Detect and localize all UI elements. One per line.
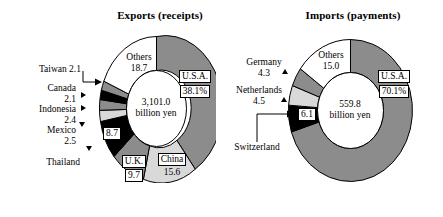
imports-switzerland-leader-line — [252, 110, 296, 146]
figure-canvas: Exports (receipts) — [0, 0, 443, 217]
imports-germany-name: Germany — [233, 57, 295, 68]
exports-label-canada: Canada 2.1 — [14, 83, 76, 105]
imports-label-usa: U.S.A. 70.1% — [373, 70, 415, 98]
exports-thailand-name: Thailand — [46, 157, 80, 167]
exports-china-name: China — [158, 153, 187, 166]
exports-thailand-marker-icon — [86, 146, 92, 151]
exports-label-indonesia: Indonesia 2.4 — [8, 104, 76, 126]
imports-chart-title: Imports (payments) — [293, 9, 413, 21]
exports-indonesia-marker-icon — [81, 105, 86, 111]
imports-netherlands-marker-icon — [281, 97, 287, 102]
exports-others-value: 18.7 — [118, 63, 160, 74]
exports-taiwan-name: Taiwan 2.1 — [39, 64, 81, 74]
exports-mexico-name: Mexico — [20, 125, 76, 136]
imports-usa-name: U.S.A. — [378, 70, 410, 83]
imports-usa-value: 70.1% — [379, 85, 410, 98]
exports-thailand-value: 8.7 — [103, 127, 121, 140]
exports-canada-name: Canada — [14, 83, 76, 94]
exports-label-china: China 15.6 — [152, 153, 192, 178]
exports-label-thailand: Thailand — [20, 157, 80, 168]
exports-mexico-marker-icon — [79, 122, 85, 127]
exports-taiwan-leader-line — [82, 70, 104, 88]
imports-netherlands-name: Netherlands — [225, 85, 293, 96]
exports-mexico-value: 2.5 — [20, 136, 76, 147]
exports-usa-value: 38.1% — [180, 85, 211, 98]
exports-label-usa: U.S.A. 38.1% — [175, 70, 215, 98]
exports-label-taiwan: Taiwan 2.1 — [14, 64, 81, 75]
exports-label-mexico: Mexico 2.5 — [20, 125, 76, 147]
imports-switzerland-value: 6.1 — [298, 108, 316, 121]
exports-china-value: 15.6 — [152, 167, 192, 178]
exports-uk-name: U.K. — [122, 155, 146, 168]
imports-label-netherlands: Netherlands 4.5 — [225, 85, 293, 107]
exports-label-thailand-value: 8.7 — [101, 127, 123, 140]
exports-label-uk: U.K. 9.7 — [119, 155, 149, 182]
exports-usa-name: U.S.A. — [179, 70, 211, 83]
imports-label-others: Others 15.0 — [310, 50, 352, 72]
exports-others-name: Others — [118, 52, 160, 63]
imports-others-value: 15.0 — [310, 61, 352, 72]
exports-indonesia-name: Indonesia — [8, 104, 76, 115]
imports-label-germany: Germany 4.3 — [233, 57, 295, 79]
exports-label-others: Others 18.7 — [118, 52, 160, 74]
imports-label-switzerland-value: 6.1 — [296, 108, 318, 121]
imports-others-name: Others — [310, 50, 352, 61]
exports-uk-value: 9.7 — [125, 169, 143, 182]
exports-chart-title: Exports (receipts) — [105, 9, 215, 21]
exports-canada-marker-icon — [81, 92, 86, 98]
imports-germany-marker-icon — [282, 69, 288, 74]
